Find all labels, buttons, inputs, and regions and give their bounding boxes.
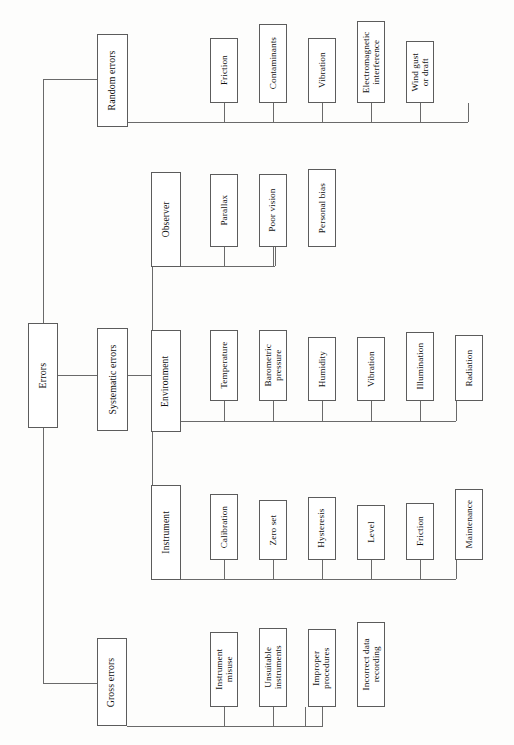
connector-environment-child-1 <box>224 401 225 421</box>
node-unsuitable-instruments-label: Unsuitable instruments <box>263 646 284 690</box>
node-personal-bias[interactable]: Personal bias <box>308 169 336 247</box>
node-incorrect-data-recording[interactable]: Incorrect data recording <box>357 622 385 707</box>
connector-random-child-3 <box>322 103 323 122</box>
node-radiation[interactable]: Radiation <box>455 335 483 401</box>
node-friction-instrument[interactable]: Friction <box>406 503 434 560</box>
node-errors[interactable]: Errors <box>28 323 58 428</box>
node-radiation-label: Radiation <box>464 350 474 387</box>
node-zero-set[interactable]: Zero set <box>259 500 287 560</box>
connector-environment-child-5 <box>420 401 421 421</box>
connector-environment-bus-end <box>456 401 457 421</box>
node-parallax[interactable]: Parallax <box>210 174 238 247</box>
node-systematic-errors-label: Systematic errors <box>107 345 118 415</box>
connector-environment-child-2 <box>273 401 274 421</box>
connector-random-child-2 <box>273 103 274 122</box>
connector-random-child-4 <box>371 103 372 122</box>
node-improper-procedures-label: Improper procedures <box>312 647 333 688</box>
connector-gross-bus-end <box>322 707 323 726</box>
node-humidity-label: Humidity <box>317 351 327 387</box>
node-gross-errors[interactable]: Gross errors <box>97 638 127 726</box>
node-barometric-pressure[interactable]: Barometric pressure <box>259 330 287 401</box>
node-zero-set-label: Zero set <box>268 515 278 546</box>
node-personal-bias-label: Personal bias <box>317 183 327 233</box>
node-illumination-label: Illumination <box>415 343 425 390</box>
node-contaminants[interactable]: Contaminants <box>259 24 287 103</box>
node-temperature-label: Temperature <box>219 342 229 389</box>
connector-random-bus-end <box>468 103 469 122</box>
diagram-canvas: Errors Random errors Systematic errors G… <box>0 0 514 745</box>
bus-environment <box>181 421 456 422</box>
node-wind-gust-or-draft-label: Wind gust or draft <box>410 53 431 92</box>
connector-instrument-bus-end <box>456 560 457 579</box>
connector-instrument-child-5 <box>420 560 421 579</box>
node-instrument-misuse-label: Instrument misuse <box>214 649 235 690</box>
connector-observer-bus-end <box>275 247 276 266</box>
node-humidity[interactable]: Humidity <box>308 337 336 401</box>
connector-environment-child-4 <box>371 401 372 421</box>
node-hysteresis-label: Hysteresis <box>317 509 327 548</box>
node-random-errors-label: Random errors <box>107 51 118 111</box>
connector-instrument-child-4 <box>371 560 372 579</box>
node-vibration-random[interactable]: Vibration <box>308 38 336 103</box>
node-contaminants-label: Contaminants <box>268 37 278 89</box>
node-friction-instrument-label: Friction <box>415 517 425 547</box>
bus-random <box>127 122 468 123</box>
node-electromagnetic-interference[interactable]: Electromagnetic interference <box>357 21 385 103</box>
node-calibration[interactable]: Calibration <box>210 494 238 560</box>
node-instrument-label: Instrument <box>161 511 172 554</box>
node-errors-label: Errors <box>37 363 48 389</box>
node-unsuitable-instruments[interactable]: Unsuitable instruments <box>259 628 287 707</box>
bus-gross <box>127 726 323 727</box>
node-illumination[interactable]: Illumination <box>406 332 434 401</box>
node-level-label: Level <box>366 522 376 543</box>
node-calibration-label: Calibration <box>219 506 229 548</box>
node-parallax-label: Parallax <box>219 195 229 226</box>
node-instrument[interactable]: Instrument <box>151 485 181 580</box>
node-improper-procedures[interactable]: Improper procedures <box>308 629 336 707</box>
connector-random-child-5 <box>420 103 421 122</box>
node-poor-vision-label: Poor vision <box>268 189 278 232</box>
node-electromagnetic-interference-label: Electromagnetic interference <box>361 31 382 93</box>
node-friction-random[interactable]: Friction <box>210 38 238 103</box>
node-environment[interactable]: Environment <box>151 330 181 432</box>
node-maintenance-label: Maintenance <box>464 500 474 549</box>
connector-gross-child-3 <box>305 707 306 726</box>
connector-observer-child-2 <box>273 247 274 266</box>
node-level[interactable]: Level <box>357 505 385 560</box>
node-barometric-pressure-label: Barometric pressure <box>263 344 284 386</box>
node-gross-errors-label: Gross errors <box>107 657 118 706</box>
node-maintenance[interactable]: Maintenance <box>455 489 483 560</box>
connector-instrument-child-1 <box>224 560 225 579</box>
connector-spine-to-gross <box>43 683 98 684</box>
node-friction-random-label: Friction <box>219 56 229 86</box>
bus-observer <box>181 266 275 267</box>
node-instrument-misuse[interactable]: Instrument misuse <box>210 632 238 707</box>
node-observer[interactable]: Observer <box>151 172 181 267</box>
connector-gross-child-1 <box>224 707 225 726</box>
node-environment-label: Environment <box>161 355 172 406</box>
node-incorrect-data-recording-label: Incorrect data recording <box>361 638 382 690</box>
node-vibration-environment[interactable]: Vibration <box>357 337 385 401</box>
connector-environment-child-3 <box>322 401 323 421</box>
connector-instrument-child-3 <box>322 560 323 579</box>
node-random-errors[interactable]: Random errors <box>97 34 128 127</box>
node-systematic-errors[interactable]: Systematic errors <box>97 328 128 431</box>
node-observer-label: Observer <box>161 202 172 238</box>
node-poor-vision[interactable]: Poor vision <box>259 174 287 247</box>
bus-instrument <box>181 579 456 580</box>
node-hysteresis[interactable]: Hysteresis <box>308 497 336 560</box>
node-vibration-environment-label: Vibration <box>366 351 376 387</box>
connector-observer-child-1 <box>224 247 225 266</box>
node-wind-gust-or-draft[interactable]: Wind gust or draft <box>406 41 434 103</box>
connector-spine-to-random <box>43 79 98 80</box>
node-temperature[interactable]: Temperature <box>210 330 238 401</box>
connector-gross-child-2 <box>273 707 274 726</box>
connector-random-child-1 <box>224 103 225 122</box>
connector-instrument-child-2 <box>273 560 274 579</box>
connector-systematic-to-subspine <box>128 375 152 376</box>
node-vibration-random-label: Vibration <box>317 53 327 89</box>
